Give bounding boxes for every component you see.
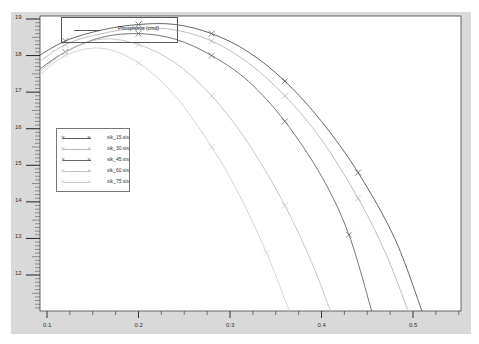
legend-item: sik_60.sis ×× — [63, 166, 129, 176]
y-tick-label: 17 — [15, 87, 22, 93]
title-swatch — [74, 30, 100, 31]
x-tick-label: 0.2 — [135, 322, 143, 328]
x-marker-icon: × — [87, 144, 91, 154]
x-tick-label: 0.5 — [409, 322, 417, 328]
x-marker-icon: × — [61, 144, 65, 154]
x-marker-icon: × — [87, 133, 91, 143]
chart-title-box: Phosphorus (cmd) — [61, 17, 178, 43]
x-marker-icon: × — [61, 133, 65, 143]
x-marker-icon: × — [61, 155, 65, 165]
y-tick-label: 18 — [15, 51, 22, 57]
y-tick-label: 14 — [15, 197, 22, 203]
chart-title: Phosphorus (cmd) — [118, 25, 159, 31]
legend-label: sik_15.sis — [107, 134, 129, 140]
y-tick-label: 13 — [15, 233, 22, 239]
y-tick-label: 16 — [15, 124, 22, 130]
x-tick-label: 0.1 — [43, 322, 51, 328]
legend-item: sik_15.sis ×× — [63, 133, 129, 143]
y-tick-label: 15 — [15, 160, 22, 166]
y-tick-label: 12 — [15, 270, 22, 276]
x-tick-label: 0.4 — [318, 322, 326, 328]
x-marker-icon: × — [87, 166, 91, 176]
x-marker-icon: × — [61, 177, 65, 187]
legend-label: sik_30.sis — [107, 145, 129, 151]
x-tick-label: 0.3 — [226, 322, 234, 328]
legend-item: sik_75.sis ×× — [63, 177, 129, 187]
x-marker-icon: × — [87, 155, 91, 165]
legend-label: sik_75.sis — [107, 178, 129, 184]
legend-item: sik_30.sis ×× — [63, 144, 129, 154]
legend-label: sik_45.sis — [107, 156, 129, 162]
y-tick-label: 19 — [15, 14, 22, 20]
legend-item: sik_45.sis ×× — [63, 155, 129, 165]
x-marker-icon: × — [61, 166, 65, 176]
x-marker-icon: × — [87, 177, 91, 187]
legend: sik_15.sis ×× sik_30.sis ×× sik_45.sis ×… — [56, 128, 130, 192]
legend-label: sik_60.sis — [107, 167, 129, 173]
